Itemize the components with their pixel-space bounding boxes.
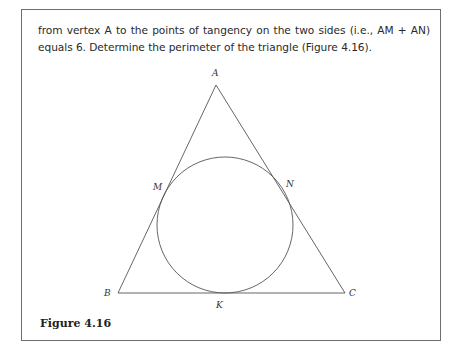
label-k: K: [215, 300, 224, 310]
label-b: B: [103, 288, 111, 298]
incircle: [157, 157, 293, 293]
label-a: A: [211, 68, 219, 78]
label-c: C: [349, 288, 356, 298]
triangle-incircle-figure: A B C M N K: [0, 0, 468, 362]
label-n: N: [285, 179, 295, 189]
label-m: M: [152, 182, 163, 192]
